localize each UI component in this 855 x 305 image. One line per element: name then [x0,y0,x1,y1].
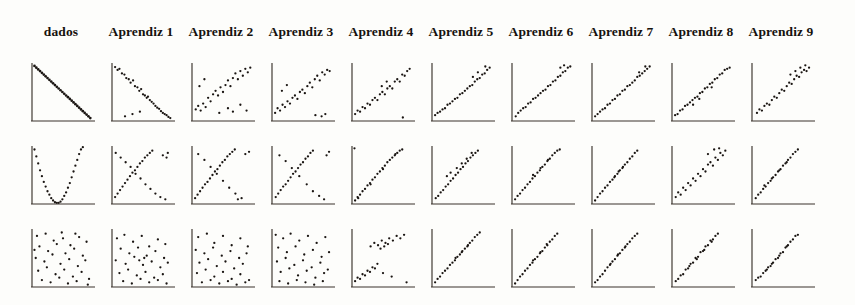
scatter-point [154,250,156,252]
scatter-point [469,85,471,87]
scatter-point [85,241,87,243]
scatter-point [777,257,779,259]
scatter-points [435,149,479,199]
scatter-point [309,152,311,154]
scatter-point [604,187,606,189]
scatter-point [302,259,304,261]
scatter-point [634,235,636,237]
scatter-point [440,191,442,193]
scatter-point [329,70,331,72]
scatter-point [366,102,368,104]
scatter-point [131,282,133,284]
scatter-point [771,263,773,265]
scatter-point [621,90,623,92]
scatter-point [195,249,197,251]
scatter-point [462,166,464,168]
scatter-point [206,232,208,234]
scatter-point [144,156,146,158]
scatter-point [808,66,810,68]
scatter-point [281,90,283,92]
scatter-point [213,275,215,277]
scatter-point [517,112,519,114]
scatter-point [152,102,154,104]
scatter-point [675,280,677,282]
scatter-point [324,113,326,115]
scatter-point [369,183,371,185]
scatter-point [124,263,126,265]
scatter-point [134,173,136,175]
scatter-point [484,65,486,67]
scatter-point [149,152,151,154]
scatter-point [120,156,122,158]
scatter-point [636,76,638,78]
scatter-point [519,192,521,194]
scatter-point [396,78,398,80]
scatter-point [203,159,205,161]
scatter-point [239,70,241,72]
scatter-point [449,102,451,104]
scatter-point [116,237,118,239]
scatter-point [795,75,797,77]
scatter-point [297,274,299,276]
scatter-point [689,101,691,103]
scatter-point [301,89,303,91]
scatter-point [756,112,758,114]
scatter-point [536,256,538,258]
scatter-point [712,238,714,240]
scatter-panel-grid [0,0,855,305]
scatter-point [529,101,531,103]
scatter-point [219,86,221,88]
scatter-point [137,246,139,248]
scatter-point [309,82,311,84]
scatter-point [294,245,296,247]
scatter-point [629,241,631,243]
scatter-point [791,83,793,85]
scatter-point [123,234,125,236]
scatter-point [238,257,240,259]
scatter-point [114,196,116,198]
scatter-point [467,244,469,246]
scatter-point [61,198,63,200]
scatter-point [564,70,566,72]
scatter-point [441,108,443,110]
scatter-point [298,175,300,177]
scatter-point [287,282,289,284]
scatter-point [160,110,162,112]
scatter-point [452,177,454,179]
scatter-point [302,161,304,163]
scatter-point [702,168,704,170]
scatter-point [311,266,313,268]
scatter-point [232,111,234,113]
scatter-point [128,252,130,254]
scatter-point [217,94,219,96]
scatter-point [687,267,689,269]
scatter-point [298,239,300,241]
scatter-point [140,88,142,90]
scatter-point [204,268,206,270]
scatter-point [524,270,526,272]
scatter-point [141,235,143,237]
scatter-point [729,66,731,68]
scatter-points [115,234,169,285]
scatter-point [684,268,686,270]
scatter-point [207,97,209,99]
scatter-points [195,232,251,285]
scatter-point [59,201,61,203]
scatter-point [369,271,371,273]
scatter-point [544,246,546,248]
scatter-point [596,113,598,115]
scatter-point [684,105,686,107]
scatter-point [229,85,231,87]
scatter-point [760,191,762,193]
scatter-point [212,246,214,248]
scatter-point [617,253,619,255]
scatter-point [82,146,84,148]
scatter-point [439,275,441,277]
scatter-point [786,245,788,247]
scatter-points [675,232,719,282]
scatter-point [383,245,385,247]
scatter-point [144,183,146,185]
scatter-point [792,238,794,240]
scatter-point [542,90,544,92]
scatter-point [163,257,165,259]
